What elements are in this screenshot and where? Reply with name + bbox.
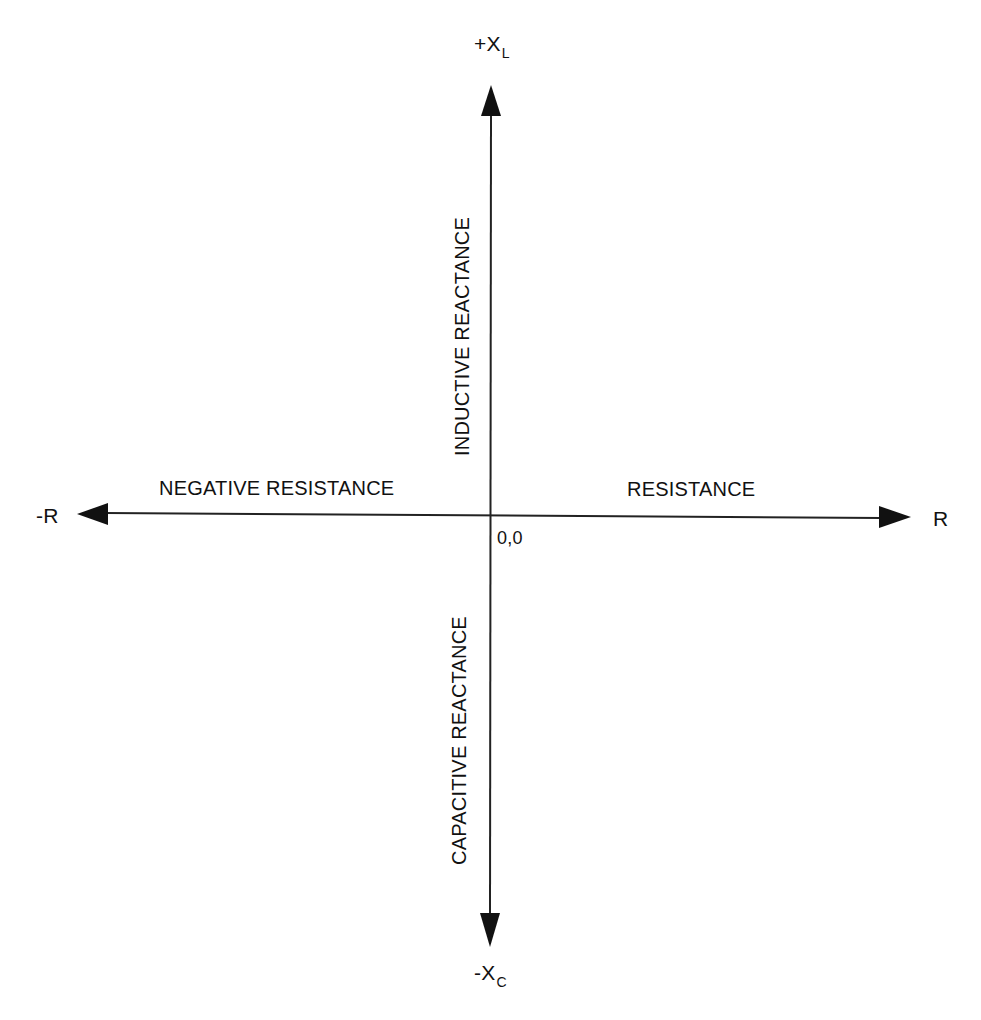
inductive-reactance-region-label: INDUCTIVE REACTANCE: [452, 217, 472, 456]
arrow-left-icon: [77, 503, 108, 525]
resistance-region-label: RESISTANCE: [627, 479, 755, 499]
positive-resistance-axis-label: R: [933, 508, 948, 529]
capacitive-subscript: C: [496, 974, 506, 990]
capacitive-reactance-region-label: CAPACITIVE REACTANCE: [449, 616, 469, 865]
negative-resistance-axis-label: -R: [36, 505, 59, 526]
arrow-down-icon: [480, 913, 500, 947]
origin-label: 0,0: [497, 529, 523, 547]
negative-reactance-axis-label: -XC: [474, 962, 507, 983]
negative-resistance-region-label: NEGATIVE RESISTANCE: [159, 478, 394, 498]
horizontal-axis-line: [105, 513, 882, 518]
inductive-subscript: L: [502, 45, 510, 61]
negative-reactance-symbol: -X: [474, 961, 495, 984]
positive-reactance-axis-label: +XL: [474, 33, 510, 54]
arrow-up-icon: [481, 85, 501, 116]
impedance-plane-diagram: [0, 0, 981, 1020]
vertical-axis-line: [490, 112, 491, 916]
arrow-right-icon: [879, 506, 911, 528]
positive-reactance-symbol: +X: [474, 32, 501, 55]
